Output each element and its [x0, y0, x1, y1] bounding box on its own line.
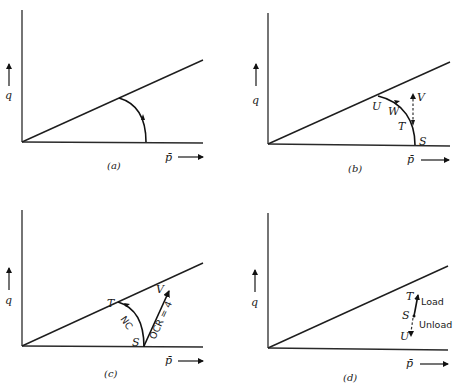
- panel-a: q p̄ (a): [5, 10, 203, 171]
- panel-b: U W T V S q p̄ (b): [252, 13, 450, 174]
- label-unload: Unload: [419, 319, 452, 330]
- caption-b: (b): [348, 163, 362, 174]
- unload-path: [411, 318, 413, 332]
- label-nc: NC: [118, 314, 135, 332]
- label-t: T: [398, 120, 407, 133]
- failure-line: [22, 60, 203, 142]
- q-label: q: [252, 94, 259, 107]
- label-u: U: [400, 330, 410, 343]
- caption-d: (d): [343, 372, 357, 383]
- v-arrow-icon: [410, 93, 416, 99]
- label-t: T: [406, 290, 415, 303]
- failure-line: [268, 266, 448, 348]
- p-label: p̄: [165, 354, 172, 367]
- p-label: p̄: [165, 151, 172, 164]
- label-s: S: [419, 135, 427, 148]
- label-v: V: [417, 91, 426, 104]
- panel-d: T S U Load Unload q p̄ (d): [251, 213, 452, 383]
- load-path: [414, 295, 418, 316]
- point-s: [413, 315, 416, 318]
- label-u: U: [372, 100, 382, 113]
- caption-c: (c): [104, 368, 118, 379]
- label-s: S: [132, 336, 140, 349]
- label-v: V: [156, 283, 165, 296]
- q-label: q: [5, 89, 12, 102]
- q-label: q: [251, 296, 258, 309]
- label-load: Load: [421, 296, 444, 307]
- stress-path-figure: q p̄ (a) U W T V S q p̄ (b) T V S NC: [0, 0, 458, 388]
- label-ocr: OCR = 4: [147, 299, 174, 341]
- panel-c: T V S NC OCR = 4 q p̄ (c): [5, 210, 203, 379]
- p-axis: [268, 348, 448, 350]
- p-axis: [22, 346, 203, 347]
- p-axis: [22, 142, 203, 143]
- p-label: p̄: [407, 153, 414, 166]
- p-label: p̄: [406, 357, 413, 370]
- q-label: q: [5, 294, 12, 307]
- label-w: W: [388, 105, 401, 118]
- caption-a: (a): [107, 160, 121, 171]
- label-s: S: [402, 309, 410, 322]
